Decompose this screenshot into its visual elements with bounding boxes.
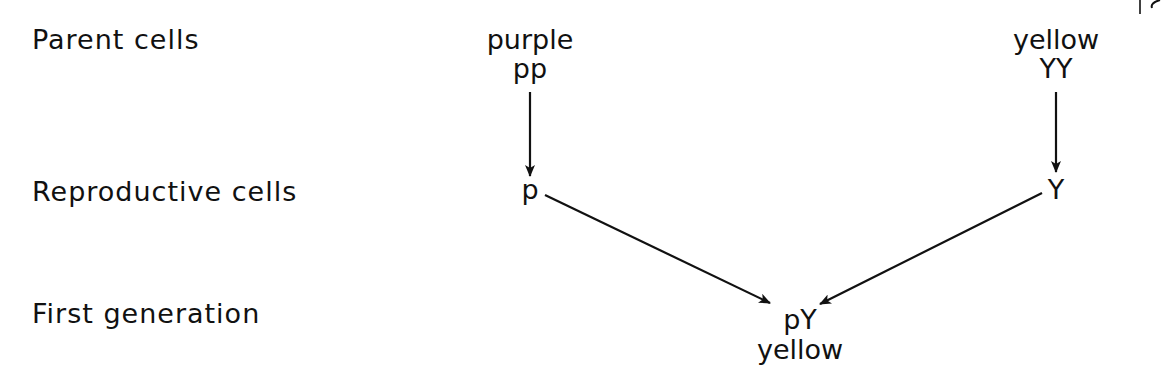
- arrow-p-to-offspring: [545, 195, 770, 303]
- arrows-layer: [0, 0, 1163, 377]
- page-edge-glyph-fragment: [1152, 0, 1160, 8]
- arrow-y-to-offspring: [820, 193, 1042, 304]
